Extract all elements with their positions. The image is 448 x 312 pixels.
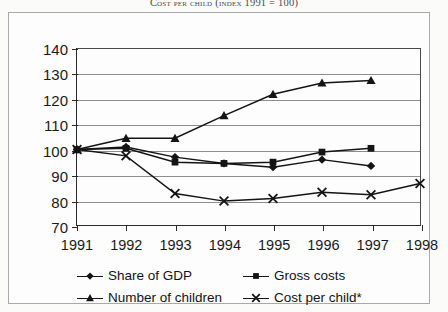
y-axis-label: 80 [51,193,68,210]
legend-item-cross[interactable]: Cost per child* [243,291,407,305]
legend-label: Number of children [108,291,222,305]
series-cross [73,145,425,205]
triangle-marker-icon [77,292,103,304]
series-square [74,145,375,167]
y-axis-label: 130 [43,66,68,83]
x-axis-label: 1993 [159,237,191,253]
x-axis-tick [225,225,226,231]
data-point [172,159,179,166]
x-axis-label: 1992 [110,237,142,253]
series-diamond [73,143,375,172]
chart-legend: Share of GDPGross costsNumber of childre… [77,265,407,309]
plot-area: 708090100110120130140 199119921993199419… [76,48,421,226]
x-axis-tick [422,225,423,231]
y-axis-label: 110 [44,117,68,134]
chart-frame: 708090100110120130140 199119921993199419… [8,12,430,304]
data-point [221,160,228,167]
y-axis-label: 100 [43,142,68,159]
x-axis-label: 1994 [209,237,241,253]
x-axis-label: 1996 [307,237,339,253]
legend-item-diamond[interactable]: Share of GDP [77,269,243,283]
data-point [367,162,375,170]
x-axis-tick [176,225,177,231]
y-axis-label: 70 [51,219,68,236]
x-axis-tick [274,225,275,231]
legend-item-triangle[interactable]: Number of children [77,291,243,305]
data-point [368,145,375,152]
data-point [219,111,228,119]
x-axis-label: 1991 [61,237,93,253]
x-axis-label: 1997 [357,237,389,253]
data-point [318,155,326,163]
x-axis-tick [77,225,78,231]
y-axis-label: 140 [43,41,68,58]
x-axis-tick [323,225,324,231]
y-axis-label: 120 [43,91,68,108]
legend-item-square[interactable]: Gross costs [243,269,407,283]
data-point [123,145,130,152]
legend-label: Cost per child* [274,291,362,305]
diamond-marker-icon [77,270,103,282]
x-axis-tick [373,225,374,231]
y-axis-label: 90 [51,168,68,185]
legend-label: Share of GDP [108,269,192,283]
data-point [270,159,277,166]
x-axis-tick [126,225,127,231]
x-axis-label: 1998 [406,237,438,253]
series-layer [77,49,420,225]
square-marker-icon [243,270,269,282]
cross-marker-icon [243,292,269,304]
chart-title: Cost per child (index 1991 = 100) [0,0,448,8]
legend-label: Gross costs [274,269,345,283]
data-point [319,149,326,156]
series-triangle [72,76,375,153]
x-axis-label: 1995 [258,237,290,253]
